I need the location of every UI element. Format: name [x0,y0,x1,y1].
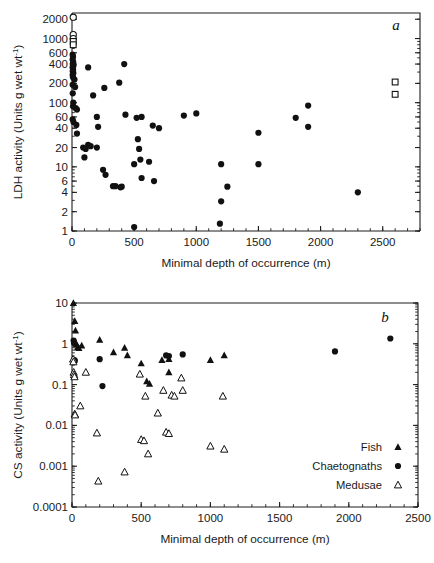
data-point-filled-circle [139,175,145,181]
legend-marker-fish [394,443,401,450]
data-point-open-triangle [93,429,100,436]
data-point-open-triangle [145,450,152,457]
y-tick-label: 6 [62,175,68,187]
data-point-open-triangle [95,477,102,484]
data-point-filled-triangle [121,344,128,351]
data-point-filled-circle [90,92,96,98]
y-tick-label: 4 [62,186,69,198]
data-point-filled-circle [95,124,101,130]
data-point-filled-circle [97,356,103,362]
data-point-filled-circle [332,348,338,354]
data-point-open-triangle [219,392,226,399]
y-tick-label: 10 [55,161,68,173]
data-point-filled-circle [166,353,172,359]
data-point-open-triangle [154,409,161,416]
y-tick-label: 400 [49,58,68,70]
panel-letter-a: a [392,17,400,33]
y-tick-label: 200 [49,77,68,89]
y-tick-label: 0.1 [52,379,68,391]
x-tick-label: 500 [132,512,151,524]
data-point-filled-circle [355,189,361,195]
plot-frame-left-bottom [72,303,418,507]
data-point-filled-circle [217,221,223,227]
panel-letter-b: b [381,309,389,325]
data-point-open-circle [70,14,76,20]
svg-text:LDH activity (Units g wet wt-1: LDH activity (Units g wet wt-1) [11,45,25,200]
x-tick-label: 0 [69,512,75,524]
data-point-open-triangle [77,402,84,409]
data-point-filled-circle [119,184,125,190]
y-axis-title: LDH activity (Units g wet wt-1) [11,45,25,200]
x-axis-title: Minimal depth of occurrence (m) [161,256,330,270]
data-point-filled-circle [136,146,142,152]
plot-frame-top-right [72,303,418,507]
data-point-filled-circle [218,161,224,167]
data-point-filled-circle [94,144,100,150]
legend-label-chaetognaths: Chaetognaths [312,460,382,472]
data-point-filled-circle [135,136,141,142]
data-point-filled-circle [74,107,80,113]
x-tick-label: 2500 [370,236,396,248]
legend-label-medusae: Medusae [336,479,382,491]
data-point-filled-circle [74,130,80,136]
data-point-open-triangle [178,374,185,381]
data-point-filled-circle [193,110,199,116]
x-axis-ticks: 05001000150020002500 [69,502,431,524]
y-tick-label: 2000 [42,13,68,25]
data-point-filled-triangle [124,352,131,359]
data-point-open-square [70,42,76,48]
x-tick-label: 1500 [267,512,293,524]
x-tick-label: 1000 [198,512,224,524]
legend-marker-medusae [394,481,401,488]
y-axis-title: CS activity (Units g wet wt-1) [11,331,25,478]
y-tick-label: 40 [55,122,68,134]
x-axis-ticks: 05001000150020002500 [69,226,420,248]
data-point-open-triangle [142,392,149,399]
data-point-filled-circle [137,156,143,162]
data-point-filled-circle [101,85,107,91]
data-point-open-triangle [82,369,89,376]
data-point-filled-circle [224,184,230,190]
y-tick-label: 0.001 [39,460,68,472]
data-point-filled-circle [72,84,78,90]
svg-text:CS activity (Units g wet wt-1): CS activity (Units g wet wt-1) [11,331,25,478]
data-point-filled-triangle [207,356,214,363]
data-point-filled-triangle [221,352,228,359]
y-tick-label: 0.0001 [33,501,68,513]
data-point-open-square [392,79,398,85]
y-tick-label: 1 [62,225,68,237]
legend-label-fish: Fish [361,441,382,453]
x-tick-label: 1500 [246,236,272,248]
data-point-filled-circle [85,64,91,70]
data-point-open-triangle [160,387,167,394]
data-point-filled-triangle [110,348,117,355]
data-point-filled-circle [88,143,94,149]
data-point-filled-triangle [96,336,103,343]
data-point-filled-triangle [72,327,79,334]
figure-container: 1246102040601002004006001000200005001000… [0,0,434,563]
x-tick-label: 2000 [336,512,362,524]
x-tick-label: 2000 [308,236,334,248]
panel-b-cs-scatter: 0.00010.0010.010.11100500100015002000250… [0,281,434,563]
panel-a-ldh-scatter: 1246102040601002004006001000200005001000… [0,0,434,281]
data-point-filled-circle [94,114,100,120]
data-point-filled-triangle [165,369,172,376]
plot-frame-top-right [72,13,420,231]
panel-a-svg: 1246102040601002004006001000200005001000… [0,0,434,281]
data-point-open-triangle [136,370,143,377]
legend: FishChaetognathsMedusae [312,441,401,491]
x-tick-label: 0 [69,236,75,248]
data-point-filled-circle [180,351,186,357]
panel-b-svg: 0.00010.0010.010.11100500100015002000250… [0,281,434,563]
data-point-filled-circle [151,178,157,184]
data-point-filled-circle [122,112,128,118]
data-point-open-triangle [121,468,128,475]
data-point-filled-circle [156,125,162,131]
data-point-filled-circle [255,161,261,167]
plot-frame-left-bottom [72,13,420,231]
y-tick-label: 600 [49,47,68,59]
y-tick-label: 1000 [42,33,68,45]
data-point-filled-circle [121,61,127,67]
data-point-filled-circle [131,224,137,230]
y-tick-label: 2 [62,206,68,218]
